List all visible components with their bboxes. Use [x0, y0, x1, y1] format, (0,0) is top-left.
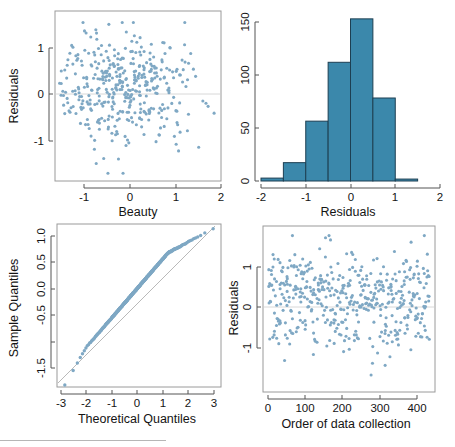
- data-point: [163, 41, 166, 44]
- data-point: [111, 88, 114, 91]
- scatter-points: [267, 234, 431, 376]
- data-point: [279, 303, 282, 306]
- data-point: [81, 99, 84, 102]
- data-point: [422, 267, 425, 270]
- data-point: [391, 278, 394, 281]
- data-point: [89, 107, 92, 110]
- data-point: [348, 303, 351, 306]
- data-point: [176, 123, 179, 126]
- data-point: [310, 308, 313, 311]
- data-point: [295, 274, 298, 277]
- data-point: [353, 301, 356, 304]
- data-point: [316, 302, 319, 305]
- data-point: [108, 115, 111, 118]
- data-point: [98, 128, 101, 131]
- data-point: [379, 308, 382, 311]
- data-point: [277, 258, 280, 261]
- data-point: [95, 162, 98, 165]
- data-point: [380, 280, 383, 283]
- data-point: [270, 273, 273, 276]
- y-axis: 1 0 -1 Residuals: [227, 264, 261, 353]
- data-point: [63, 68, 66, 71]
- data-point: [301, 257, 304, 260]
- data-point: [425, 282, 428, 285]
- xtick-label: 400: [407, 402, 426, 414]
- data-point: [116, 57, 119, 60]
- residuals-vs-order-svg: 1 0 -1 Residuals 0 100 200 300 400 Order…: [228, 220, 455, 447]
- data-point: [87, 52, 90, 55]
- data-point: [319, 274, 322, 277]
- data-point: [326, 318, 329, 321]
- data-point: [138, 84, 141, 87]
- data-point: [324, 321, 327, 324]
- xtick-label: -1: [79, 191, 89, 203]
- data-point: [295, 265, 298, 268]
- data-point: [132, 62, 135, 65]
- data-point: [163, 125, 166, 128]
- data-point: [316, 318, 319, 321]
- histogram-bar: [351, 19, 373, 181]
- data-point: [304, 328, 307, 331]
- data-point: [385, 325, 388, 328]
- data-point: [308, 267, 311, 270]
- data-point: [86, 85, 89, 88]
- data-point: [273, 333, 276, 336]
- xtick-label: -1: [107, 397, 117, 409]
- data-point: [379, 314, 382, 317]
- data-point: [160, 116, 163, 119]
- data-point: [71, 369, 74, 372]
- data-point: [388, 355, 391, 358]
- data-point: [423, 234, 426, 237]
- data-point: [93, 148, 96, 151]
- data-point: [275, 337, 278, 340]
- data-point: [178, 73, 181, 76]
- data-point: [405, 324, 408, 327]
- data-point: [81, 352, 84, 355]
- data-point: [342, 287, 345, 290]
- data-point: [155, 71, 158, 74]
- xtick-label: 0: [134, 397, 140, 409]
- data-point: [277, 342, 280, 345]
- data-point: [409, 278, 412, 281]
- data-point: [399, 290, 402, 293]
- data-point: [113, 125, 116, 128]
- data-point: [63, 112, 66, 115]
- data-point: [296, 326, 299, 329]
- data-point: [416, 292, 419, 295]
- data-point: [332, 322, 335, 325]
- data-point: [322, 288, 325, 291]
- data-point: [140, 125, 143, 128]
- data-point: [106, 172, 109, 175]
- data-point: [137, 75, 140, 78]
- data-point: [124, 78, 127, 81]
- data-point: [337, 323, 340, 326]
- data-point: [121, 110, 124, 113]
- data-point: [74, 89, 77, 92]
- data-point: [163, 52, 166, 55]
- data-point: [273, 312, 276, 315]
- data-point: [133, 82, 136, 85]
- data-point: [143, 101, 146, 104]
- data-point: [400, 297, 403, 300]
- data-point: [156, 85, 159, 88]
- data-point: [354, 270, 357, 273]
- data-point: [98, 94, 101, 97]
- data-point: [396, 331, 399, 334]
- ytick-label: 0: [38, 88, 44, 100]
- data-point: [140, 46, 143, 49]
- data-point: [387, 334, 390, 337]
- data-point: [66, 58, 69, 61]
- data-point: [117, 52, 120, 55]
- data-point: [98, 122, 101, 125]
- data-point: [312, 332, 315, 335]
- data-point: [165, 117, 168, 120]
- x-axis-label: Residuals: [321, 205, 376, 219]
- data-point: [400, 285, 403, 288]
- data-point: [66, 101, 69, 104]
- data-point: [109, 63, 112, 66]
- data-point: [165, 82, 168, 85]
- data-point: [125, 30, 128, 33]
- data-point: [324, 280, 327, 283]
- data-point: [115, 88, 118, 91]
- data-point: [420, 335, 423, 338]
